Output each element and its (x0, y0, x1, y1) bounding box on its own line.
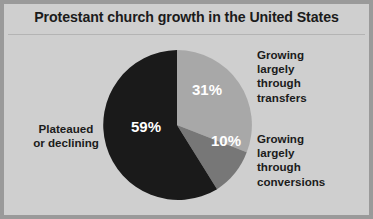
pie-value-plateaued-or-declining: 59% (131, 118, 161, 135)
pie-label-plateaued-or-declining: Plateaued or declining (24, 122, 108, 150)
pie-value-growing-through-transfers: 31% (192, 81, 222, 98)
pie-svg (102, 50, 252, 200)
pie-label-line: largely (257, 146, 325, 160)
pie-label-line: Growing (257, 48, 307, 62)
pie-label-line: or declining (24, 136, 108, 150)
pie-label-line: Plateaued (24, 122, 108, 136)
pie-label-line: largely (257, 62, 307, 76)
chart-figure: Protestant church growth in the United S… (0, 0, 373, 219)
pie-label-line: Growing (257, 132, 325, 146)
title-divider (8, 34, 365, 35)
pie-label-line: transfers (257, 91, 307, 105)
pie-chart (102, 50, 252, 200)
chart-title: Protestant church growth in the United S… (0, 9, 373, 25)
pie-value-growing-through-conversions: 10% (211, 132, 241, 149)
pie-label-growing-through-conversions: Growing largely through conversions (257, 132, 325, 189)
pie-label-line: through (257, 160, 325, 174)
pie-label-line: conversions (257, 175, 325, 189)
pie-label-line: through (257, 76, 307, 90)
pie-label-growing-through-transfers: Growing largely through transfers (257, 48, 307, 105)
